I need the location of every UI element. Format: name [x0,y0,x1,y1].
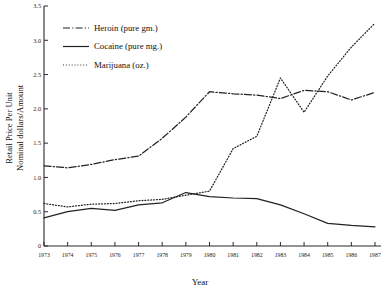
x-tick-label: 1973 [38,252,50,258]
x-tick-label: 1976 [109,252,121,258]
x-tick-label: 1982 [251,252,263,258]
chart-container: Retail Price Per Unit Nominal dollars/Am… [0,0,388,289]
chart-legend: Heroin (pure gm.)Cocaine (pure mg.)Marij… [63,23,162,70]
x-tick-label: 1983 [275,252,287,258]
y-axis-ticks: 00.51.01.52.02.53.03.5 [33,2,48,249]
line-chart: Retail Price Per Unit Nominal dollars/Am… [0,0,388,289]
x-tick-label: 1974 [62,252,74,258]
y-axis-title-line2: Nominal dollars/Amount [15,84,25,171]
x-tick-label: 1981 [227,252,239,258]
x-tick-label: 1979 [180,252,192,258]
y-tick-label: 0.5 [33,208,41,215]
x-tick-label: 1977 [133,252,145,258]
x-tick-label: 1975 [85,252,97,258]
x-tick-label: 1987 [369,252,381,258]
y-tick-label: 1.5 [33,139,41,146]
x-tick-label: 1985 [322,252,334,258]
y-tick-label: 1.0 [33,174,41,181]
y-tick-label: 0 [38,242,41,249]
x-axis-ticks: 1973197419751976197719781979198019811982… [38,242,381,258]
y-tick-label: 2.0 [33,105,41,112]
y-axis-title: Retail Price Per Unit Nominal dollars/Am… [4,84,25,171]
x-axis-title: Year [192,277,209,287]
y-tick-label: 3.0 [33,37,41,44]
x-tick-label: 1986 [346,252,358,258]
y-tick-label: 3.5 [33,2,41,9]
series-line-heroin [44,90,375,167]
x-tick-label: 1984 [298,252,310,258]
legend-label-2: Marijuana (oz.) [94,60,149,70]
y-tick-label: 2.5 [33,71,41,78]
legend-label-0: Heroin (pure gm.) [94,23,158,33]
y-axis-title-line1: Retail Price Per Unit [4,92,14,164]
x-tick-label: 1980 [204,252,216,258]
series-layer [44,23,375,227]
x-tick-label: 1978 [156,252,168,258]
series-line-cocaine [44,193,375,227]
legend-label-1: Cocaine (pure mg.) [94,41,162,51]
